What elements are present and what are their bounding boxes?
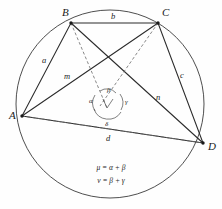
segment-ab: [22, 23, 71, 116]
equation-nu: ν = β + γ: [97, 176, 126, 185]
diagonal-bd: [71, 23, 203, 143]
vertex-dot-b: [69, 21, 72, 24]
segment-cd: [158, 23, 203, 143]
vertex-label-c: C: [162, 6, 170, 18]
diagonal-label-n: n: [156, 92, 160, 102]
side-label-d: d: [106, 133, 111, 143]
side-label-c: c: [180, 70, 184, 80]
arc-alpha: [93, 95, 95, 111]
cyclic-quadrilateral-figure: A B C D a b c d m n α β γ δ μ = α + β ν …: [0, 0, 222, 209]
intersection-cross: [103, 99, 113, 108]
vertex-label-d: D: [207, 140, 216, 152]
arc-gamma: [120, 94, 123, 110]
diagonal-label-m: m: [64, 71, 70, 81]
vertex-dot-c: [156, 21, 159, 24]
vertex-label-b: B: [62, 6, 69, 18]
arc-delta: [94, 109, 121, 119]
angle-label-gamma: γ: [125, 98, 128, 106]
angle-label-delta: δ: [105, 120, 109, 128]
angle-label-alpha: α: [89, 97, 93, 105]
vertex-label-a: A: [8, 109, 16, 121]
side-label-b: b: [111, 11, 115, 21]
geometry-canvas: A B C D a b c d m n α β γ δ μ = α + β ν …: [0, 0, 222, 209]
side-label-a: a: [42, 55, 46, 65]
vertex-dot-a: [20, 114, 23, 117]
vertex-dot-d: [201, 141, 204, 144]
angle-label-beta: β: [106, 86, 111, 94]
dashed-line-b-center: [71, 23, 107, 108]
equation-mu: μ = α + β: [96, 163, 125, 172]
